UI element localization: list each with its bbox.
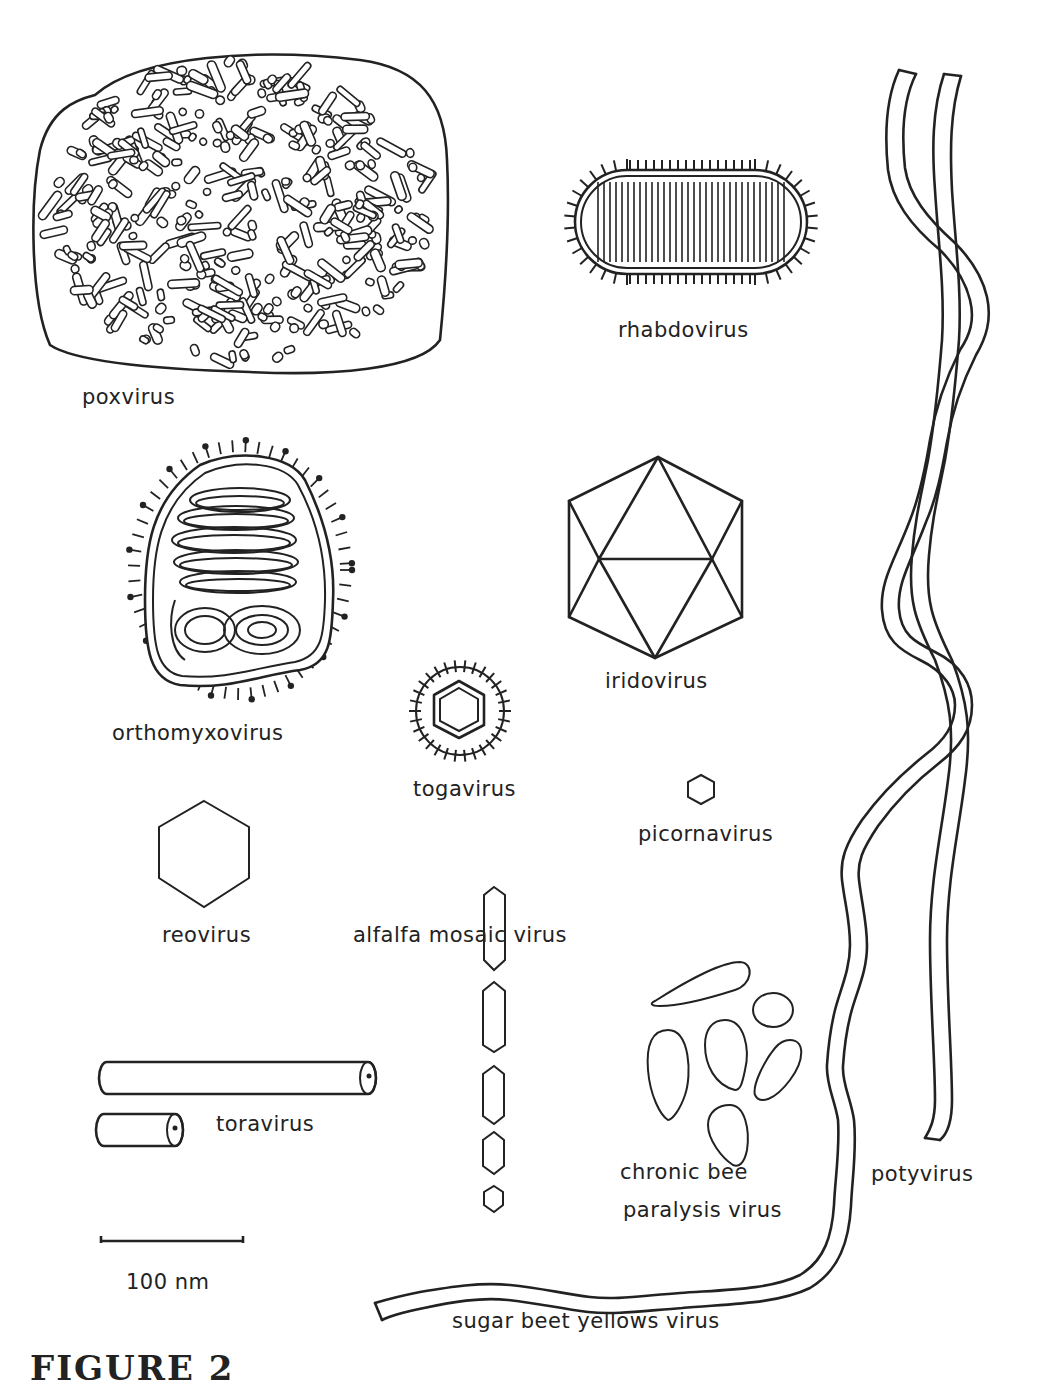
picornavirus-drawing — [688, 775, 714, 804]
label-poxvirus: poxvirus — [82, 385, 175, 409]
label-toravirus: toravirus — [216, 1112, 314, 1136]
iridovirus-drawing — [569, 457, 742, 658]
togavirus-drawing — [409, 660, 511, 761]
label-potyvirus: potyvirus — [871, 1162, 974, 1186]
label-alfalfa-mosaic-virus: alfalfa mosaic virus — [353, 923, 567, 947]
label-togavirus: togavirus — [413, 777, 516, 801]
chronic-bee-paralysis-virus-drawing — [648, 962, 802, 1166]
label-sugar-beet-yellows-virus: sugar beet yellows virus — [452, 1309, 720, 1333]
orthomyxovirus-drawing — [126, 437, 355, 703]
label-chronic-bee-paralysis-virus-line2: paralysis virus — [623, 1198, 782, 1222]
rhabdovirus-drawing — [564, 159, 817, 285]
label-chronic-bee-paralysis-virus-line1: chronic bee — [620, 1160, 748, 1184]
reovirus-drawing — [159, 801, 249, 907]
label-reovirus: reovirus — [162, 923, 251, 947]
scale-bar-label: 100 nm — [126, 1270, 210, 1294]
label-orthomyxovirus: orthomyxovirus — [112, 721, 284, 745]
figure-caption: FIGURE 2 — [30, 1348, 234, 1384]
label-iridovirus: iridovirus — [605, 669, 708, 693]
poxvirus-drawing — [33, 54, 447, 373]
label-picornavirus: picornavirus — [638, 822, 773, 846]
label-rhabdovirus: rhabdovirus — [618, 318, 749, 342]
scale-bar — [101, 1236, 243, 1243]
